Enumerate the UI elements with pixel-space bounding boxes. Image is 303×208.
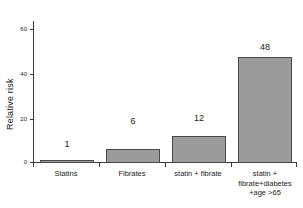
bar-value-statin-fibrate: 12 [172,113,226,123]
y-tick-mark-60 [30,29,34,30]
x-tick-label-statin-fibrate: statin + fibrate [163,169,233,179]
bar-value-statins: 1 [40,139,94,149]
x-tick-label-fibrates: Fibrates [99,169,165,179]
x-tick-mark-3 [231,163,232,167]
bar-fibrates [106,149,160,163]
bar-statin-fibrate [172,136,226,163]
x-tick-label-statins: Statins [33,169,99,179]
x-tick-mark-0 [33,163,34,167]
x-tick-label-line-3: +age >65 [229,188,301,198]
bar-statin-fibrate-diabetes-age [238,57,292,163]
y-tick-mark-40 [30,74,34,75]
y-axis-line [33,21,34,163]
bar-value-fibrates: 6 [106,116,160,126]
x-tick-mark-1 [99,163,100,167]
y-tick-label-0: 0 [5,159,27,165]
y-tick-label-40: 40 [5,71,27,77]
x-tick-mark-2 [165,163,166,167]
x-tick-label-line-1: statin + [229,169,301,179]
y-tick-label-20: 20 [5,116,27,122]
bar-value-statin-fibrate-diabetes-age: 48 [238,42,292,52]
bar-chart: Relative risk 60 40 20 0 1 Statins 6 Fib… [0,0,303,208]
x-tick-mark-4 [296,163,297,167]
y-tick-label-60: 60 [5,26,27,32]
x-tick-label-line-2: fibrate+diabetes [229,179,301,189]
x-tick-label-statin-fibrate-diabetes-age: statin + fibrate+diabetes +age >65 [229,169,301,198]
bar-statins [40,160,94,163]
y-tick-mark-20 [30,119,34,120]
